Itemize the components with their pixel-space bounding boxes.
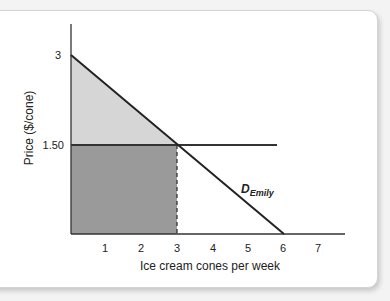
expenditure-area [71,145,177,234]
x-tick-1: 1 [102,242,108,254]
y-axis-label: Price ($/cone) [22,91,36,166]
x-tick-3: 3 [174,242,180,254]
x-tick-2: 2 [138,242,144,254]
demand-chart: 3 1.50 1 2 3 4 5 6 7 Ice cream cones per… [0,0,390,301]
x-tick-5: 5 [245,242,251,254]
x-tick-7: 7 [315,242,321,254]
x-axis-label: Ice cream cones per week [140,259,281,273]
y-tick-1-50: 1.50 [43,139,64,151]
y-tick-3: 3 [55,49,61,61]
demand-curve-label: DEmily [241,182,275,198]
demand-label-sub: Emily [250,188,275,198]
demand-label-main: D [241,182,250,196]
x-tick-6: 6 [280,242,286,254]
x-tick-4: 4 [210,242,216,254]
